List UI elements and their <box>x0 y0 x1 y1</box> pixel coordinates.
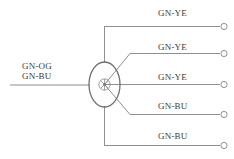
output-wire-1-label: GN-YE <box>158 8 187 18</box>
output-wire-5-label: GN-BU <box>158 131 188 141</box>
splice-core-dot <box>103 83 106 86</box>
output-wire-3-label: GN-YE <box>158 72 187 82</box>
output-wire-3-terminal-icon <box>221 81 227 87</box>
output-wire-1-terminal-icon <box>221 23 227 29</box>
output-wire-1-group <box>104 23 227 29</box>
output-wire-5-group <box>104 142 227 148</box>
output-wire-4-label: GN-BU <box>158 101 188 111</box>
output-wire-3-group <box>105 81 228 87</box>
output-wire-5-terminal-icon <box>221 142 227 148</box>
output-wire-2-terminal-icon <box>221 50 227 56</box>
output-wire-4-terminal-icon <box>221 111 227 117</box>
input-wire-label-line2: GN-BU <box>22 71 52 81</box>
wiring-diagram: GN-OG GN-BU GN-YE GN-YE GN-YE GN-BU GN-B… <box>0 0 234 159</box>
input-wire-label: GN-OG GN-BU <box>22 61 52 81</box>
output-wire-2-label: GN-YE <box>158 42 187 52</box>
input-wire-label-line1: GN-OG <box>22 61 52 71</box>
